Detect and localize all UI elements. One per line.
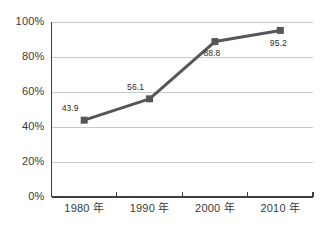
y-axis-tick-label: 20% — [22, 155, 45, 167]
chart-canvas: 0%20%40%60%80%100% 1980 年1990 年2000 年201… — [0, 0, 330, 229]
y-axis-tick-label: 40% — [22, 120, 45, 132]
line-chart: 0%20%40%60%80%100% 1980 年1990 年2000 年201… — [0, 0, 330, 229]
data-point-label: 95.2 — [270, 38, 287, 48]
data-point-marker — [81, 117, 88, 124]
data-point-label: 56.1 — [127, 82, 144, 92]
data-point-marker — [211, 38, 218, 45]
data-point-label: 88.8 — [203, 48, 220, 58]
x-axis-tick-label: 1980 年 — [64, 201, 104, 214]
chart-background — [0, 0, 330, 229]
x-axis-tick-label: 2010 年 — [260, 201, 300, 214]
x-axis-tick-label: 2000 年 — [195, 201, 235, 214]
data-point-marker — [277, 27, 284, 34]
y-axis-tick-label: 0% — [28, 190, 44, 202]
y-axis-tick-label: 100% — [16, 15, 45, 27]
y-axis-tick-label: 60% — [22, 85, 45, 97]
data-point-marker — [146, 95, 153, 102]
y-axis-tick-label: 80% — [22, 50, 45, 62]
x-axis-tick-label: 1990 年 — [130, 201, 170, 214]
data-point-label: 43.9 — [62, 103, 79, 113]
